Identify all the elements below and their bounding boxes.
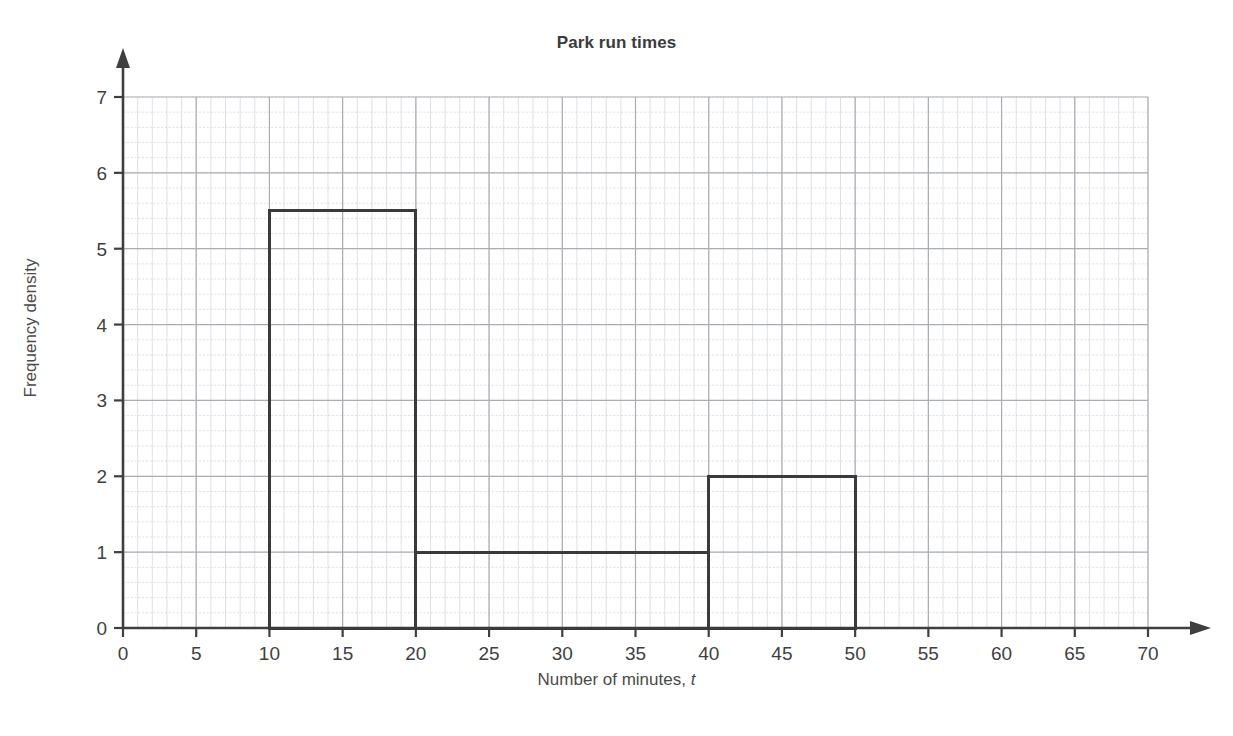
histogram-figure: Park run times Frequency density Number …: [0, 0, 1233, 736]
x-tick-label: 5: [191, 643, 202, 664]
y-tick-label: 7: [96, 87, 107, 108]
x-tick-label: 70: [1137, 643, 1158, 664]
x-tick-label: 35: [625, 643, 646, 664]
x-tick-label: 65: [1064, 643, 1085, 664]
x-tick-label: 45: [771, 643, 792, 664]
axis-tick-labels: 051015202530354045505560657001234567: [96, 87, 1158, 664]
x-tick-label: 15: [332, 643, 353, 664]
x-tick-label: 10: [259, 643, 280, 664]
y-tick-label: 0: [96, 618, 107, 639]
y-tick-label: 4: [96, 315, 107, 336]
x-tick-label: 55: [918, 643, 939, 664]
plot-area: 051015202530354045505560657001234567: [0, 0, 1233, 736]
y-tick-label: 6: [96, 163, 107, 184]
x-tick-label: 60: [991, 643, 1012, 664]
axes: [116, 48, 1211, 635]
y-tick-label: 3: [96, 390, 107, 411]
x-tick-label: 0: [118, 643, 129, 664]
x-tick-label: 20: [405, 643, 426, 664]
y-tick-label: 5: [96, 239, 107, 260]
grid-major-lines: [123, 97, 1148, 628]
x-tick-label: 25: [479, 643, 500, 664]
x-tick-label: 40: [698, 643, 719, 664]
x-tick-label: 50: [845, 643, 866, 664]
x-tick-label: 30: [552, 643, 573, 664]
y-tick-label: 2: [96, 466, 107, 487]
y-tick-label: 1: [96, 542, 107, 563]
